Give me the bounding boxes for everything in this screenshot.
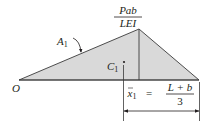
- dimension-numerator: L + b: [167, 81, 193, 93]
- dimension-lhs: x1: [127, 87, 137, 101]
- moment-area-triangle: [19, 29, 199, 80]
- origin-label: O: [12, 82, 20, 94]
- area-leader-arrow: [73, 38, 81, 52]
- dimension-equals: =: [146, 87, 152, 99]
- peak-denominator: LEI: [119, 17, 138, 29]
- area-label: A1: [56, 35, 68, 49]
- moment-diagram: Pab LEI A1 C1 O x1 = L + b 3: [0, 0, 214, 127]
- dimension-denominator: 3: [177, 95, 183, 107]
- peak-numerator: Pab: [118, 4, 137, 16]
- centroid-dot: [123, 61, 125, 63]
